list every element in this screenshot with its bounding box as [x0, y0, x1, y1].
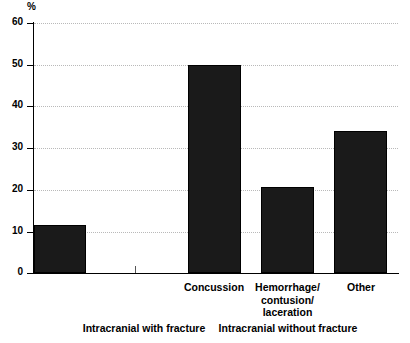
y-tick-label-30: 30 [0, 141, 23, 153]
category-label-other-text: Other [330, 281, 392, 294]
bar-chart: % 60 50 40 30 20 10 0 [0, 0, 410, 343]
bar-other [334, 131, 387, 273]
group-label-intracranial-without-fracture: Intracranial without fracture [166, 322, 410, 335]
category-label-hemorrhage: Hemorrhage/ contusion/ laceration [245, 281, 330, 319]
category-label-other: Other [330, 281, 392, 294]
category-label-hemorrhage-line1: Hemorrhage/ [245, 281, 330, 294]
category-label-concussion: Concussion [174, 281, 254, 294]
y-tick-label-40: 40 [0, 99, 23, 111]
category-label-hemorrhage-line3: laceration [245, 306, 330, 319]
bar-intracranial-with-fracture [34, 225, 86, 273]
y-tick-label-10: 10 [0, 225, 23, 237]
y-tick-label-60: 60 [0, 16, 23, 28]
gridline-60 [34, 23, 398, 25]
y-tick-label-0: 0 [0, 266, 23, 278]
group-separator-tick [135, 266, 136, 273]
y-tick-label-50: 50 [0, 58, 23, 70]
y-tick-label-20: 20 [0, 183, 23, 195]
y-axis-unit-label: % [27, 1, 36, 13]
category-label-hemorrhage-line2: contusion/ [245, 294, 330, 307]
bar-hemorrhage-contusion-laceration [261, 187, 314, 273]
category-label-concussion-text: Concussion [174, 281, 254, 294]
bar-concussion [188, 65, 241, 274]
